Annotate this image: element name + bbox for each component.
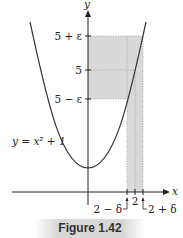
x-tick-label-2: 2 — [132, 195, 139, 207]
x-tick-label-2-plus-delta: 2 + δ — [148, 203, 176, 215]
arrow-up-icon — [126, 197, 129, 201]
epsilon-delta-diagram: y x 5 + ε 5 5 − ε 2 − δ 2 2 + δ y = x² +… — [0, 0, 183, 238]
y-axis-label: y — [83, 0, 91, 10]
equation-label: y = x² + 1 — [11, 135, 66, 147]
y-tick-label-5-minus-epsilon: 5 − ε — [54, 93, 82, 105]
figure: y x 5 + ε 5 5 − ε 2 − δ 2 2 + δ y = x² +… — [0, 0, 183, 238]
x-tick-label-2-minus-delta: 2 − δ — [94, 203, 122, 215]
x-axis-arrow-icon — [163, 189, 170, 195]
x-axis-label: x — [172, 185, 178, 197]
delta-band — [127, 36, 143, 192]
y-axis-arrow-icon — [85, 10, 91, 17]
figure-caption: Figure 1.42 — [35, 219, 145, 238]
y-tick-label-5: 5 — [75, 64, 82, 76]
y-tick-label-5-plus-epsilon: 5 + ε — [54, 30, 82, 42]
arrow-up-icon — [142, 197, 145, 201]
